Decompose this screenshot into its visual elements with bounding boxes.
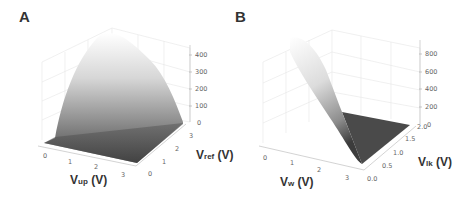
- svg-text:1.5: 1.5: [405, 135, 415, 143]
- x-axis-label-b: Vw (V): [280, 175, 314, 189]
- svg-text:1: 1: [290, 159, 294, 167]
- svg-text:0: 0: [263, 154, 267, 162]
- z-ticks-b: 800 600 400 200 0: [419, 50, 437, 129]
- svg-text:0.0: 0.0: [367, 175, 377, 183]
- svg-text:0: 0: [148, 170, 152, 178]
- svg-text:200: 200: [195, 85, 207, 93]
- svg-text:1.0: 1.0: [393, 149, 403, 157]
- panel-label-b: B: [235, 8, 246, 25]
- svg-text:300: 300: [195, 68, 207, 76]
- svg-text:400: 400: [425, 85, 437, 93]
- svg-text:2: 2: [94, 163, 98, 171]
- svg-text:0: 0: [43, 152, 47, 160]
- svg-text:400: 400: [195, 51, 207, 59]
- svg-text:0: 0: [427, 121, 431, 129]
- svg-text:0: 0: [197, 119, 201, 127]
- svg-text:2: 2: [175, 145, 179, 153]
- panel-b: B: [235, 8, 452, 189]
- figure: A: [0, 0, 470, 198]
- svg-text:1: 1: [162, 158, 166, 166]
- svg-text:3: 3: [189, 132, 193, 140]
- z-ticks-a: 400 300 200 100 0: [189, 51, 207, 127]
- svg-text:1: 1: [68, 158, 72, 166]
- svg-text:100: 100: [195, 102, 207, 110]
- svg-text:800: 800: [425, 50, 437, 58]
- svg-text:3: 3: [121, 171, 125, 179]
- x-axis-label-a: Vup (V): [70, 173, 107, 187]
- y-axis-label-a: Vref (V): [196, 148, 234, 162]
- svg-text:2: 2: [317, 166, 321, 174]
- svg-text:3: 3: [345, 174, 349, 182]
- y-axis-label-b: Vlk (V): [418, 155, 452, 169]
- svg-text:0.5: 0.5: [382, 162, 392, 170]
- svg-text:200: 200: [425, 103, 437, 111]
- panel-label-a: A: [19, 8, 30, 25]
- panel-a: A: [19, 8, 234, 187]
- svg-text:2.0: 2.0: [417, 123, 427, 131]
- svg-text:600: 600: [425, 68, 437, 76]
